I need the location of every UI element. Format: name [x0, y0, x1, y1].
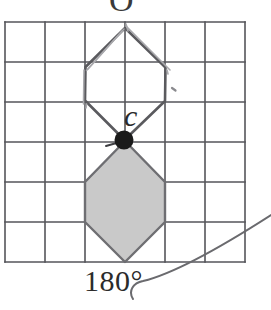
angle-label: 180°	[84, 264, 143, 298]
center-label: c	[124, 99, 137, 133]
ghost-stroke	[167, 70, 168, 74]
rotation-diagram-figure: O c 180°	[0, 0, 271, 310]
ghost-stroke	[126, 26, 170, 70]
clipped-glyph-top: O	[109, 0, 134, 19]
sketch-ghost-strokes	[84, 24, 171, 108]
ghost-stroke	[84, 70, 85, 104]
shaded-hexagon	[85, 141, 165, 262]
ghost-stroke	[86, 104, 87, 108]
ghost-stroke	[88, 31, 122, 69]
stray-ink-mark	[172, 88, 176, 91]
center-of-rotation-dot	[115, 131, 134, 150]
